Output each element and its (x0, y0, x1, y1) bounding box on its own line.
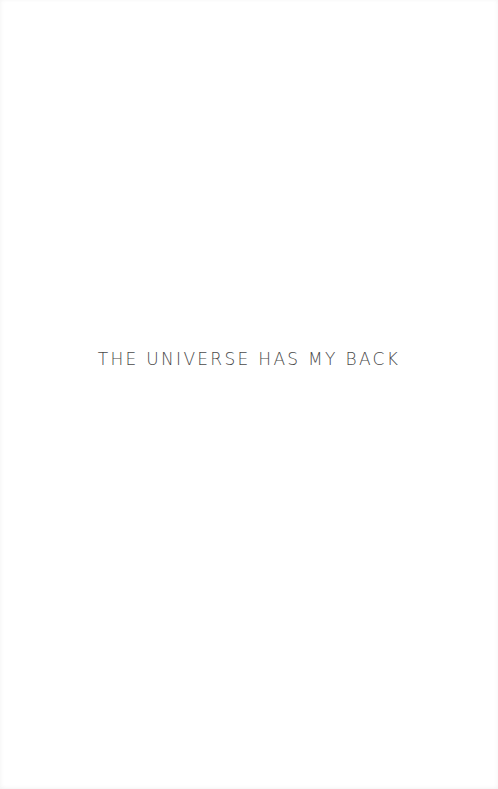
title-page: THE UNIVERSE HAS MY BACK (0, 0, 498, 789)
book-title: THE UNIVERSE HAS MY BACK (0, 347, 498, 371)
